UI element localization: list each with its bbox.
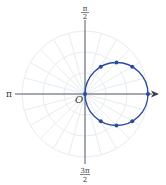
grid-ray: [85, 94, 146, 110]
polar-plot: π 2 π 3π 2 O: [0, 0, 166, 185]
label-3pi-over-2-den: 2: [83, 176, 87, 184]
curve-point: [99, 119, 103, 123]
curve-point: [146, 92, 150, 96]
axis-arrow-icon: [151, 91, 159, 98]
grid-ray: [85, 78, 146, 94]
label-3pi-over-2-num: 3π: [80, 167, 89, 175]
label-pi-over-2-den: 2: [83, 13, 87, 21]
grid-ray: [85, 94, 101, 155]
label-origin: O: [75, 94, 83, 105]
curve-point: [99, 65, 103, 69]
curve-point: [130, 119, 134, 123]
grid-ray: [69, 33, 85, 94]
curve-point: [115, 124, 119, 128]
grid-ray: [85, 33, 101, 94]
curve-point: [115, 61, 119, 65]
curve-point: [130, 65, 134, 69]
label-pi-over-2-num: π: [83, 5, 88, 13]
grid-ray: [24, 78, 85, 94]
curve-point: [83, 92, 87, 96]
label-pi: π: [6, 89, 12, 99]
